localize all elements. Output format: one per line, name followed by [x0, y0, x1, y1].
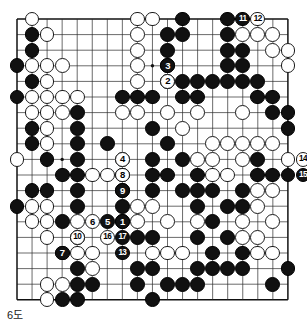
stone-white-3-3[interactable]	[55, 58, 70, 73]
stone-black-15-2[interactable]	[235, 43, 250, 58]
stone-black-15-12[interactable]	[235, 199, 250, 214]
stone-black-10-1[interactable]	[160, 27, 175, 42]
stone-white-15-14[interactable]	[235, 230, 250, 245]
stone-black-4-12[interactable]	[70, 199, 85, 214]
stone-white-5-15[interactable]	[85, 246, 100, 261]
stone-black-9-14[interactable]	[145, 230, 160, 245]
stone-white-18-9[interactable]	[281, 152, 296, 167]
move-stone-4[interactable]: 4	[115, 152, 130, 167]
stone-white-7-6[interactable]	[115, 105, 130, 120]
stone-white-6-10[interactable]	[100, 168, 115, 183]
stone-black-9-5[interactable]	[145, 90, 160, 105]
stone-black-17-17[interactable]	[265, 277, 280, 292]
stone-white-8-3[interactable]	[130, 58, 145, 73]
move-stone-17[interactable]: 17	[115, 230, 130, 245]
stone-black-9-18[interactable]	[145, 292, 160, 307]
stone-black-3-10[interactable]	[55, 168, 70, 183]
stone-white-3-6[interactable]	[55, 105, 70, 120]
stone-white-12-9[interactable]	[190, 152, 205, 167]
stone-white-8-12[interactable]	[130, 199, 145, 214]
stone-white-9-0[interactable]	[145, 12, 160, 27]
stone-black-11-9[interactable]	[175, 152, 190, 167]
stone-black-14-14[interactable]	[220, 230, 235, 245]
stone-black-4-8[interactable]	[70, 136, 85, 151]
stone-black-10-2[interactable]	[160, 43, 175, 58]
stone-black-11-5[interactable]	[175, 90, 190, 105]
stone-white-2-4[interactable]	[40, 74, 55, 89]
stone-black-11-17[interactable]	[175, 277, 190, 292]
stone-white-9-15[interactable]	[145, 246, 160, 261]
stone-white-4-13[interactable]	[70, 214, 85, 229]
stone-black-18-16[interactable]	[281, 261, 296, 276]
stone-white-8-1[interactable]	[130, 27, 145, 42]
stone-black-9-16[interactable]	[145, 261, 160, 276]
stone-white-10-13[interactable]	[160, 214, 175, 229]
stone-black-9-7[interactable]	[145, 121, 160, 136]
stone-black-12-11[interactable]	[190, 183, 205, 198]
move-stone-10[interactable]: 10	[70, 230, 85, 245]
stone-white-16-14[interactable]	[250, 230, 265, 245]
stone-black-16-4[interactable]	[250, 74, 265, 89]
stone-black-4-18[interactable]	[70, 292, 85, 307]
stone-black-10-8[interactable]	[160, 136, 175, 151]
stone-black-13-16[interactable]	[205, 261, 220, 276]
stone-black-12-4[interactable]	[190, 74, 205, 89]
stone-white-1-12[interactable]	[25, 199, 40, 214]
stone-white-8-6[interactable]	[130, 105, 145, 120]
stone-black-15-11[interactable]	[235, 183, 250, 198]
stone-white-10-6[interactable]	[160, 105, 175, 120]
stone-white-0-9[interactable]	[10, 152, 25, 167]
stone-black-1-2[interactable]	[25, 43, 40, 58]
stone-black-16-9[interactable]	[250, 152, 265, 167]
stone-white-8-0[interactable]	[130, 12, 145, 27]
stone-white-12-6[interactable]	[190, 105, 205, 120]
stone-black-12-17[interactable]	[190, 277, 205, 292]
stone-white-17-2[interactable]	[265, 43, 280, 58]
stone-black-4-10[interactable]	[70, 168, 85, 183]
stone-black-3-18[interactable]	[55, 292, 70, 307]
stone-black-12-16[interactable]	[190, 261, 205, 276]
stone-white-15-9[interactable]	[235, 152, 250, 167]
stone-black-4-9[interactable]	[70, 152, 85, 167]
move-stone-8[interactable]: 8	[115, 168, 130, 183]
stone-white-11-15[interactable]	[175, 246, 190, 261]
stone-black-10-10[interactable]	[160, 168, 175, 183]
stone-black-3-13[interactable]	[55, 214, 70, 229]
stone-black-1-7[interactable]	[25, 121, 40, 136]
move-stone-9[interactable]: 9	[115, 183, 130, 198]
stone-white-8-2[interactable]	[130, 43, 145, 58]
stone-white-8-13[interactable]	[130, 214, 145, 229]
move-stone-7[interactable]: 7	[55, 246, 70, 261]
stone-black-8-5[interactable]	[130, 90, 145, 105]
stone-white-3-5[interactable]	[55, 90, 70, 105]
stone-white-5-10[interactable]	[85, 168, 100, 183]
move-stone-1[interactable]: 1	[115, 214, 130, 229]
stone-black-4-11[interactable]	[70, 183, 85, 198]
move-stone-2[interactable]: 2	[160, 74, 175, 89]
stone-black-14-16[interactable]	[220, 261, 235, 276]
stone-white-18-2[interactable]	[281, 43, 296, 58]
stone-white-2-12[interactable]	[40, 199, 55, 214]
move-stone-3[interactable]: 3	[160, 58, 175, 73]
stone-black-14-1[interactable]	[220, 27, 235, 42]
stone-black-1-4[interactable]	[25, 74, 40, 89]
stone-black-15-4[interactable]	[235, 74, 250, 89]
stone-black-9-11[interactable]	[145, 183, 160, 198]
stone-black-4-17[interactable]	[70, 277, 85, 292]
stone-black-9-9[interactable]	[145, 152, 160, 167]
stone-white-15-6[interactable]	[235, 105, 250, 120]
stone-black-11-4[interactable]	[175, 74, 190, 89]
stone-black-14-4[interactable]	[220, 74, 235, 89]
stone-black-13-11[interactable]	[205, 183, 220, 198]
stone-white-4-5[interactable]	[70, 90, 85, 105]
stone-white-5-16[interactable]	[85, 261, 100, 276]
move-stone-16[interactable]: 16	[100, 230, 115, 245]
stone-black-7-12[interactable]	[115, 199, 130, 214]
stone-black-6-8[interactable]	[100, 136, 115, 151]
stone-white-2-14[interactable]	[40, 230, 55, 245]
stone-black-4-6[interactable]	[70, 105, 85, 120]
stone-white-2-7[interactable]	[40, 121, 55, 136]
stone-black-9-10[interactable]	[145, 168, 160, 183]
go-board[interactable]: 1234567891011121314151617	[0, 0, 307, 306]
stone-black-14-12[interactable]	[220, 199, 235, 214]
